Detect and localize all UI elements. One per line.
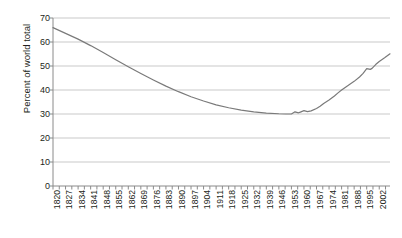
x-axis-tick-label: 1974 (328, 190, 337, 209)
x-axis-tick-label: 1932 (253, 190, 262, 209)
x-axis-tick-label: 1988 (353, 190, 362, 209)
x-axis-tick-label: 1904 (203, 190, 212, 209)
x-axis-tick-label: 1827 (65, 190, 74, 209)
gridlines (53, 18, 390, 162)
x-axis-tick-label: 1820 (52, 190, 61, 209)
x-axis-tick-label: 1918 (228, 190, 237, 209)
data-line-series-0 (53, 28, 390, 114)
x-axis-tick-label: 1841 (90, 190, 99, 209)
x-axis-tick-label: 1876 (152, 190, 161, 209)
x-axis-tick-label: 1869 (140, 190, 149, 209)
x-axis-tick-label: 1911 (215, 190, 224, 208)
x-axis-tick-label: 1890 (177, 190, 186, 209)
x-axis-tick-label: 1946 (278, 190, 287, 209)
x-axis-tick-label: 1834 (77, 190, 86, 209)
x-axis-tick-label: 2002 (378, 190, 387, 209)
x-axis-tick-label: 1967 (316, 190, 325, 209)
chart-container: Percent of world total 010203040506070 1… (0, 0, 402, 238)
x-axis-tick-label: 1925 (240, 190, 249, 209)
x-axis-tick-label: 1939 (265, 190, 274, 209)
x-axis-tick-label: 1960 (303, 190, 312, 209)
x-axis-tick-label: 1897 (190, 190, 199, 209)
x-axis-tick-label: 1995 (366, 190, 375, 209)
x-axis-tick-label: 1862 (127, 190, 136, 209)
x-axis-tick-label: 1953 (290, 190, 299, 209)
x-axis-tick-label: 1848 (102, 190, 111, 209)
x-axis-ticks (53, 186, 386, 190)
x-axis-tick-label: 1855 (115, 190, 124, 209)
x-axis-tick-labels: 1820182718341841184818551862186918761883… (53, 190, 390, 238)
x-axis-tick-label: 1981 (341, 190, 350, 209)
x-axis-tick-label: 1883 (165, 190, 174, 209)
